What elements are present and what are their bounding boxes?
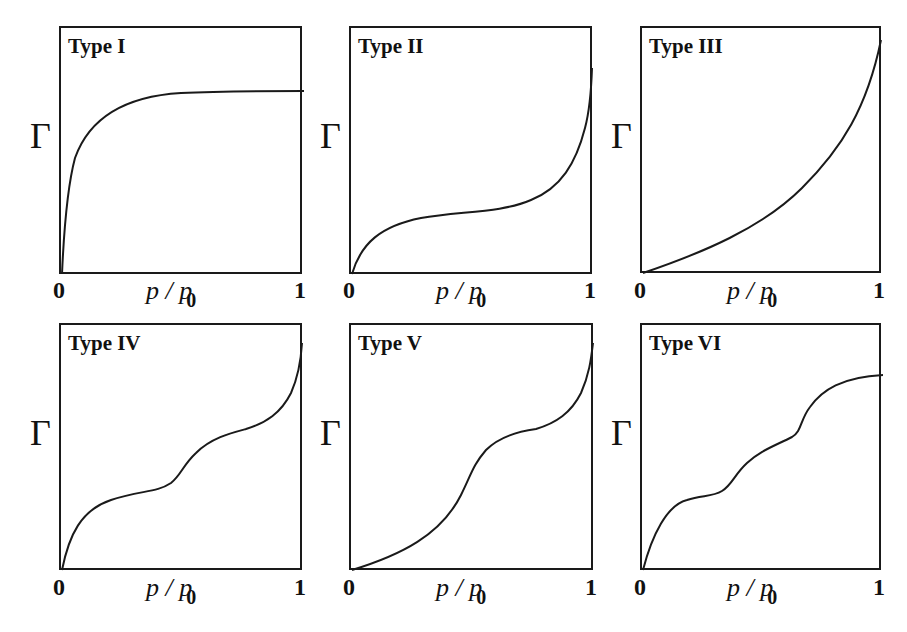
- panel-type-i: Type I Γ 0 1 p / p0: [0, 0, 310, 316]
- plot-area: Type I: [59, 26, 302, 274]
- panel-type-iii: Type III Γ 0 1 p / p0: [590, 0, 907, 316]
- y-axis-label: Γ: [320, 118, 341, 154]
- x-axis-label: p / p0: [727, 278, 783, 304]
- y-axis-label: Γ: [611, 118, 632, 154]
- plot-area: Type VI: [640, 323, 881, 570]
- x-axis-label: p / p0: [146, 278, 202, 304]
- isotherm-curve: [351, 325, 595, 572]
- x-axis-label-sub: 0: [767, 586, 777, 608]
- isotherm-curve: [61, 28, 304, 276]
- isotherm-curve: [61, 325, 304, 572]
- y-axis-label: Γ: [320, 415, 341, 451]
- x-axis-label-sub: 0: [476, 289, 486, 311]
- panel-type-ii: Type II Γ 0 1 p / p0: [290, 0, 600, 316]
- x-axis-label-sub: 0: [476, 586, 486, 608]
- isotherm-curve: [642, 28, 883, 275]
- x-tick-1: 1: [873, 575, 885, 599]
- x-axis-label-sub: 0: [186, 586, 196, 608]
- x-tick-0: 0: [53, 575, 65, 599]
- x-axis-label: p / p0: [436, 278, 492, 304]
- plot-area: Type III: [640, 26, 881, 273]
- x-tick-0: 0: [343, 278, 355, 302]
- x-axis-label: p / p0: [146, 575, 202, 601]
- isotherm-curve: [642, 325, 883, 572]
- x-tick-0: 0: [53, 278, 65, 302]
- y-axis-label: Γ: [30, 118, 51, 154]
- x-tick-0: 0: [634, 278, 646, 302]
- y-axis-label: Γ: [30, 415, 51, 451]
- plot-area: Type II: [349, 26, 592, 274]
- plot-area: Type IV: [59, 323, 302, 570]
- y-axis-label: Γ: [611, 415, 632, 451]
- panel-type-v: Type V Γ 0 1 p / p0: [290, 310, 600, 632]
- x-tick-1: 1: [873, 278, 885, 302]
- x-axis-label: p / p0: [436, 575, 492, 601]
- plot-area: Type V: [349, 323, 593, 570]
- panel-type-iv: Type IV Γ 0 1 p / p0: [0, 310, 310, 632]
- x-axis-label-sub: 0: [767, 289, 777, 311]
- x-tick-0: 0: [343, 575, 355, 599]
- panel-type-vi: Type VI Γ 0 1 p / p0: [590, 310, 907, 632]
- isotherm-curve: [351, 28, 594, 276]
- x-axis-label: p / p0: [727, 575, 783, 601]
- x-axis-label-sub: 0: [186, 289, 196, 311]
- x-tick-0: 0: [634, 575, 646, 599]
